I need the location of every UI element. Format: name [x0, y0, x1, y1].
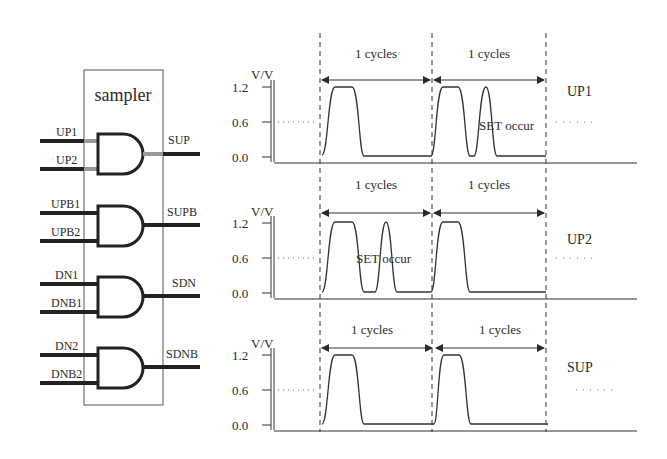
waveform-sup — [322, 355, 548, 424]
input-label: DNB2 — [51, 367, 82, 381]
figure-canvas: sampler UP1 UP2 SUP UPB1 UPB2 SUPB DN1 D… — [0, 0, 667, 459]
y-tick: 0.0 — [232, 150, 248, 165]
signal-label: UP1 — [567, 84, 592, 99]
and-gate-sup: UP1 UP2 SUP — [40, 125, 200, 174]
output-label: SDNB — [166, 347, 198, 361]
y-tick: 0.6 — [232, 251, 249, 266]
cycle-boundaries — [320, 33, 546, 432]
and-gate-supb: UPB1 UPB2 SUPB — [40, 197, 200, 246]
waveform-panel-up1: V/V 1.2 0.6 0.0 1 cycles 1 cycles SET oc… — [232, 46, 637, 165]
waveform-panel-up2: V/V 1.2 0.6 0.0 1 cycles 1 cycles SET oc… — [232, 177, 637, 301]
cycle-label: 1 cycles — [351, 322, 393, 337]
cycle-label: 1 cycles — [468, 177, 510, 192]
and-gate-sdnb: DN2 DNB2 SDNB — [40, 339, 200, 388]
cycle-label: 1 cycles — [355, 177, 397, 192]
input-label: UPB2 — [51, 225, 80, 239]
y-tick: 1.2 — [232, 216, 248, 231]
y-tick: 0.6 — [232, 383, 249, 398]
cycle-label: 1 cycles — [479, 322, 521, 337]
y-tick: 1.2 — [232, 80, 248, 95]
cycle-label: 1 cycles — [355, 46, 397, 61]
y-tick: 0.6 — [232, 115, 249, 130]
sampler-title: sampler — [95, 85, 152, 105]
signal-label: UP2 — [567, 232, 592, 247]
cycle-label: 1 cycles — [468, 46, 510, 61]
output-label: SUP — [168, 133, 190, 147]
y-tick: 0.0 — [232, 286, 248, 301]
input-label: DN1 — [55, 268, 78, 282]
and-gate-sdn: DN1 DNB1 SDN — [40, 268, 200, 317]
input-label: DN2 — [55, 339, 78, 353]
set-occur-annotation: SET occur — [479, 118, 535, 133]
y-axis-label: V/V — [251, 67, 274, 82]
input-label: UP2 — [56, 153, 77, 167]
signal-label: SUP — [567, 360, 593, 375]
y-tick: 0.0 — [232, 418, 248, 433]
input-label: DNB1 — [51, 296, 82, 310]
waveform-panel-sup: V/V 1.2 0.6 0.0 1 cycles 1 cycles SUP — [232, 322, 637, 433]
output-label: SDN — [172, 276, 196, 290]
input-label: UPB1 — [51, 197, 80, 211]
set-occur-annotation: SET occur — [356, 251, 412, 266]
y-tick: 1.2 — [232, 348, 248, 363]
input-label: UP1 — [56, 125, 77, 139]
output-label: SUPB — [167, 205, 197, 219]
